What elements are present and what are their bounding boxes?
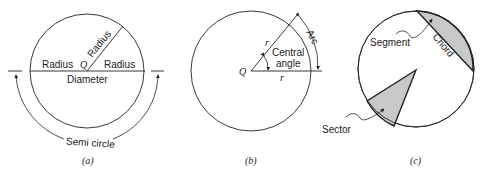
radius-right-label: Radius [104, 59, 135, 70]
segment-label: Segment [370, 37, 410, 48]
center-q-label: Q [80, 59, 88, 70]
figure-b: Q r r Central angle Arc (b) [191, 11, 322, 167]
arc-label: Arc [304, 28, 321, 46]
diameter-label: Diameter [67, 74, 108, 85]
circle-parts-diagram: Radius Radius Radius Q Diameter Semi cir… [0, 0, 481, 174]
figure-a: Radius Radius Radius Q Diameter Semi cir… [8, 14, 164, 167]
central-angle-label-2: angle [276, 58, 301, 69]
central-angle-arc [264, 56, 268, 70]
semicircle-arc-right [113, 75, 158, 139]
caption-b: (b) [245, 155, 257, 167]
r-lower-label: r [280, 72, 284, 83]
caption-a: (a) [82, 155, 94, 167]
semicircle-label: Semi circle [66, 135, 116, 149]
sector-label: Sector [322, 124, 352, 135]
r-upper-label: r [265, 37, 269, 48]
semicircle-arc-left [16, 75, 64, 139]
central-angle-label-1: Central [272, 47, 304, 58]
center-q-label-b: Q [239, 66, 247, 77]
figure-c: Segment Chord Sector (c) [322, 11, 474, 167]
radius-left-label: Radius [42, 59, 73, 70]
caption-c: (c) [410, 155, 422, 167]
